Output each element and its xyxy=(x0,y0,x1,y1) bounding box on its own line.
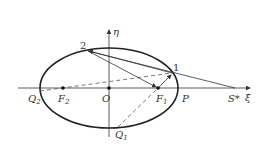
ellipse-diagram: η ξ 2 1 Q2 F2 O F1 P S* Q1 xyxy=(0,0,265,153)
label-eta: η xyxy=(113,26,119,37)
focus-left-dot xyxy=(61,86,65,90)
label-origin: O xyxy=(102,93,110,104)
label-q2: Q2 xyxy=(28,93,41,106)
label-point-one: 1 xyxy=(173,62,179,73)
label-f1: F1 xyxy=(155,93,167,106)
label-s-star: S* xyxy=(228,93,240,104)
dashed-line-q1-to-f1 xyxy=(118,88,158,127)
focus-right-dot xyxy=(156,86,160,90)
ray-2-to-f1 xyxy=(88,51,156,87)
label-p: P xyxy=(181,93,189,104)
label-q1: Q1 xyxy=(115,129,128,142)
label-point-two: 2 xyxy=(80,40,86,51)
label-xi: ξ xyxy=(245,92,251,103)
origin-dot xyxy=(107,86,111,90)
ray-1-to-2 xyxy=(89,51,172,73)
ray-f1-to-1 xyxy=(158,75,171,88)
label-f2: F2 xyxy=(57,93,70,106)
